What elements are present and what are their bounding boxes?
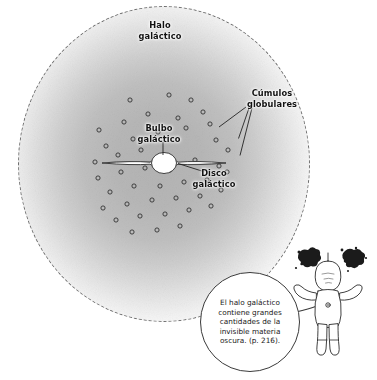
globular-cluster-marker (119, 170, 123, 174)
globular-cluster-marker (208, 122, 212, 126)
astronaut-helmet (315, 261, 341, 291)
globular-cluster-marker (104, 144, 108, 148)
label-galactic-bulge: Bulbo galáctico (124, 123, 194, 144)
astronaut-arm-left (294, 285, 316, 300)
speech-bubble-text: El halo galáctico contiene grandes canti… (211, 298, 289, 346)
globular-cluster-marker (143, 166, 147, 170)
globular-cluster-marker (209, 204, 213, 208)
globular-cluster-marker (163, 212, 167, 216)
label-globular-clusters: Cúmulos globulares (236, 88, 308, 109)
astronaut-leg-left (317, 324, 327, 355)
globular-cluster-marker (167, 93, 171, 97)
globular-cluster-marker (139, 148, 143, 152)
globular-cluster-marker (125, 202, 129, 206)
globular-cluster-marker (132, 184, 136, 188)
globular-cluster-marker (158, 184, 162, 188)
diagram-overlay (0, 0, 377, 380)
label-galactic-halo: Halo galáctico (125, 20, 195, 41)
astronaut-torso (315, 290, 341, 328)
globular-cluster-marker (174, 196, 178, 200)
globular-cluster-marker (130, 230, 134, 234)
astronaut-arm-right (340, 285, 362, 300)
globular-cluster-marker (108, 190, 112, 194)
globular-cluster-marker (128, 98, 132, 102)
globular-cluster-marker (226, 148, 230, 152)
globular-cluster-marker (146, 112, 150, 116)
globular-cluster-marker (138, 214, 142, 218)
globular-cluster-marker (178, 224, 182, 228)
globular-cluster-marker (214, 138, 218, 142)
astronaut-character (294, 247, 367, 355)
globular-cluster-marker (97, 128, 101, 132)
astronaut-leg-right (329, 324, 339, 355)
globular-cluster-marker (187, 208, 191, 212)
dark-matter-blob-right (341, 247, 368, 272)
globular-cluster-marker (114, 218, 118, 222)
galaxy-diagram: Halo galáctico Cúmulos globulares Bulbo … (0, 0, 377, 380)
globular-cluster-marker (150, 198, 154, 202)
globular-cluster-marker (116, 153, 120, 157)
globular-cluster-marker (93, 160, 97, 164)
label-galactic-disk: Disco galáctico (179, 168, 249, 189)
globular-cluster-marker (155, 228, 159, 232)
speech-bubble-tail (296, 306, 317, 312)
globular-cluster-marker (176, 116, 180, 120)
globular-cluster-marker (96, 176, 100, 180)
speech-bubble: El halo galáctico contiene grandes canti… (200, 272, 300, 372)
globular-cluster-marker (201, 110, 205, 114)
galactic-bulge (152, 153, 177, 174)
globular-cluster-marker (101, 206, 105, 210)
globular-cluster-marker (198, 194, 202, 198)
globular-cluster-marker (189, 98, 193, 102)
